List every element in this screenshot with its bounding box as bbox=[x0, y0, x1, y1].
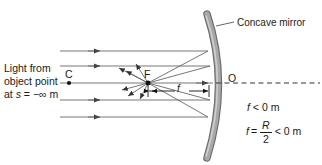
focal-relation-rhs: < 0 m bbox=[275, 125, 302, 138]
focal-point-dot bbox=[146, 81, 151, 86]
focal-relation-lhs: f bbox=[246, 125, 249, 138]
fraction-denominator: 2 bbox=[261, 133, 271, 145]
concave-mirror-label: Concave mirror bbox=[237, 17, 305, 30]
focal-sign-formula: f < 0 m bbox=[247, 101, 279, 114]
radius-over-two-fraction: R 2 bbox=[260, 120, 272, 144]
caption-line-2: object point bbox=[4, 75, 58, 88]
focal-length-label: f bbox=[177, 83, 180, 96]
center-of-curvature-label: C bbox=[65, 68, 73, 81]
vertex-label: O bbox=[228, 72, 236, 85]
caption-line-1: Light from bbox=[4, 62, 58, 75]
focal-relation-formula: f = R 2 < 0 m bbox=[246, 120, 301, 144]
concave-mirror-figure: Light from object point at s = −∞ m Conc… bbox=[0, 0, 322, 165]
focal-relation-equals: = bbox=[251, 125, 257, 138]
caption-line-3-prefix: at bbox=[4, 88, 16, 100]
center-of-curvature-dot bbox=[67, 81, 71, 85]
focal-point-label: F bbox=[144, 68, 150, 81]
focal-sign-rest: < 0 m bbox=[250, 101, 279, 113]
concave-mirror-arc bbox=[206, 14, 218, 158]
caption-line-3-rest: = −∞ m bbox=[21, 88, 58, 100]
concave-mirror-leader-line bbox=[216, 22, 234, 26]
caption-line-3: at s = −∞ m bbox=[4, 88, 58, 101]
fraction-numerator: R bbox=[260, 120, 272, 132]
object-point-caption: Light from object point at s = −∞ m bbox=[4, 62, 58, 101]
